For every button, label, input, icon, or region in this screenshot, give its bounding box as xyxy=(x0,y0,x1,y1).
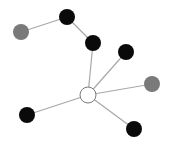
edge-n6-hub xyxy=(27,95,88,115)
nodes-layer xyxy=(13,9,160,137)
gray-node-n5 xyxy=(144,76,160,92)
edges-layer xyxy=(21,17,152,129)
edge-n7-hub xyxy=(88,95,134,129)
network-graph xyxy=(0,0,172,145)
black-node-n6 xyxy=(19,107,35,123)
black-node-n2 xyxy=(59,9,75,25)
edge-n4-hub xyxy=(88,52,126,95)
black-node-n4 xyxy=(118,44,134,60)
edge-n5-hub xyxy=(88,84,152,95)
hub-node-hub xyxy=(80,87,96,103)
gray-node-n1 xyxy=(13,24,29,40)
black-node-n3 xyxy=(85,35,101,51)
black-node-n7 xyxy=(126,121,142,137)
